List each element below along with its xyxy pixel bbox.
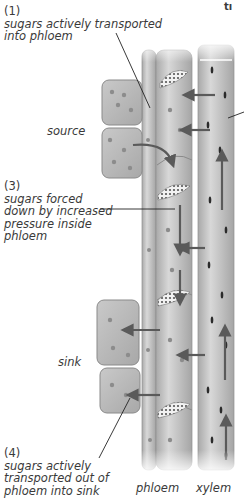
sink-label: sink xyxy=(58,356,81,369)
title-fragment: tı xyxy=(224,1,232,14)
step3-line4: phloem xyxy=(4,230,112,243)
step4-line2: transported out of xyxy=(4,472,109,485)
step1-line2: into phloem xyxy=(4,30,162,43)
step4-label: (4) sugars actively transported out of p… xyxy=(4,447,109,497)
step3-label: (3) sugars forced down by increased pres… xyxy=(4,180,112,243)
source-label: source xyxy=(47,125,85,138)
step4-line3: phloem into sink xyxy=(4,485,109,498)
phloem-translocation-illustration xyxy=(0,0,244,499)
xylem-column xyxy=(198,45,234,470)
phloem-label: phloem xyxy=(136,482,179,495)
step3-line2: down by increased xyxy=(4,205,112,218)
step4-number: (4) xyxy=(4,447,109,460)
xylem-label: xylem xyxy=(196,482,231,495)
step3-number: (3) xyxy=(4,180,112,193)
step1-label: (1) sugars actively transported into phl… xyxy=(4,5,162,43)
step1-number: (1) xyxy=(4,5,162,18)
